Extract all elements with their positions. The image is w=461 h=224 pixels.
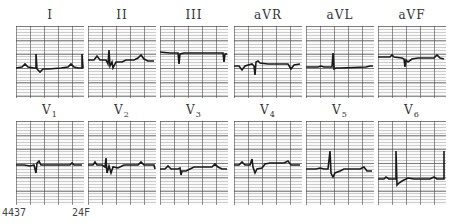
ecg-trace (234, 121, 302, 205)
ecg-grid-panel (306, 121, 374, 205)
ecg-grid-panel (234, 26, 302, 98)
ecg-grid-panel (160, 121, 228, 205)
ecg-trace (234, 26, 302, 98)
ecg-trace (16, 121, 84, 205)
ecg-grid-panel (16, 121, 84, 205)
footer-patient-info: 24F (72, 207, 90, 218)
ecg-trace (88, 121, 156, 205)
ecg-grid-panel (234, 121, 302, 205)
ecg-trace (88, 26, 156, 98)
lead-label: aVL (306, 8, 374, 22)
lead-label: V5 (306, 103, 374, 119)
ecg-grid-panel (16, 26, 84, 98)
lead-label: aVF (378, 8, 446, 22)
ecg-grid-panel (306, 26, 374, 98)
ecg-trace (160, 26, 228, 98)
ecg-trace (378, 26, 446, 98)
lead-label: V1 (16, 103, 84, 119)
lead-label: aVR (234, 8, 302, 22)
ecg-trace (16, 26, 84, 98)
lead-label: II (88, 8, 156, 22)
lead-label: III (160, 8, 228, 22)
ecg-trace (160, 121, 228, 205)
ecg-grid-panel (160, 26, 228, 98)
lead-label: V6 (378, 103, 446, 119)
lead-label: V3 (160, 103, 228, 119)
ecg-trace (378, 121, 446, 205)
ecg-grid-panel (378, 121, 446, 205)
lead-label: V2 (88, 103, 156, 119)
lead-label: V4 (234, 103, 302, 119)
ecg-grid-panel (88, 26, 156, 98)
ecg-grid-panel (88, 121, 156, 205)
ecg-trace (306, 26, 374, 98)
footer-record-id: 4437 (2, 207, 26, 218)
ecg-grid-panel (378, 26, 446, 98)
lead-label: I (16, 8, 84, 22)
ecg-trace (306, 121, 374, 205)
